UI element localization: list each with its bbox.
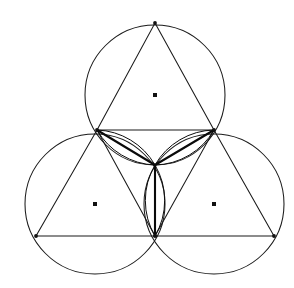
upper-right-vertex-dot: [212, 128, 216, 132]
top-center-dot: [153, 93, 157, 97]
central-rosette-group: [97, 130, 214, 236]
bottom-center-vertex-dot: [153, 234, 157, 238]
bottom-right-vertex-dot: [272, 234, 276, 238]
petal-lower-outer-arc: [145, 165, 155, 236]
left-center-dot: [93, 202, 97, 206]
apex-vertex-dot: [153, 21, 157, 25]
geometric-figure-canvas: [0, 0, 294, 288]
upper-left-vertex-dot: [95, 128, 99, 132]
petal-upper-left-chord: [97, 130, 155, 165]
bottom-left-vertex-dot: [34, 234, 38, 238]
geometry-diagram: [0, 0, 294, 288]
petal-upper-right-chord: [155, 130, 214, 165]
right-triangle: [155, 130, 274, 236]
right-center-dot: [212, 202, 216, 206]
left-triangle: [36, 130, 155, 236]
petal-lower-inner-arc: [155, 165, 165, 236]
